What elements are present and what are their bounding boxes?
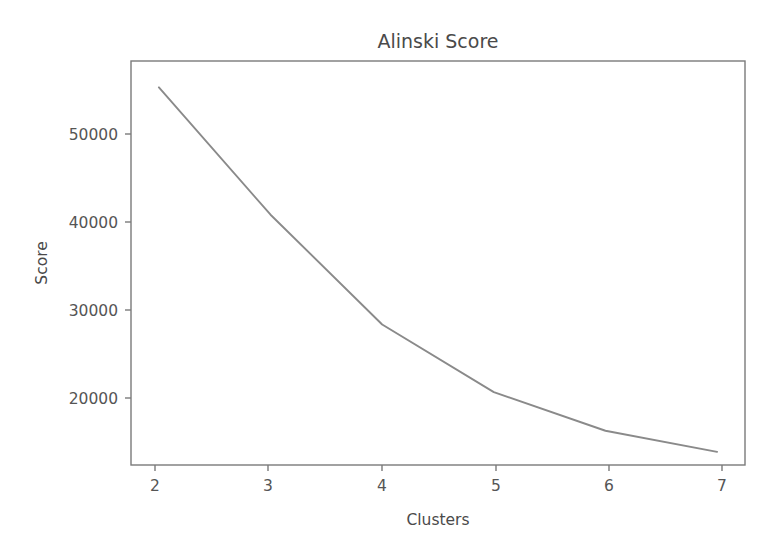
y-tick-label-50000: 50000 [69,126,118,144]
y-axis-ticks [125,134,131,398]
y-tick-label-40000: 40000 [69,214,118,232]
x-axis-tick-labels: 2 3 4 5 6 7 [150,477,727,495]
x-tick-label-6: 6 [604,477,614,495]
y-tick-label-30000: 30000 [69,302,118,320]
x-tick-label-4: 4 [377,477,387,495]
x-tick-label-2: 2 [150,477,160,495]
chart-title: Alinski Score [377,30,498,52]
plot-frame [131,61,745,465]
x-tick-label-7: 7 [717,477,727,495]
y-tick-label-20000: 20000 [69,390,118,408]
alinski-score-line-chart: 50000 40000 30000 20000 2 3 4 5 6 7 Alin… [0,0,780,551]
x-axis-ticks [155,465,722,471]
x-tick-label-5: 5 [491,477,501,495]
x-axis-label: Clusters [406,511,469,529]
y-axis-tick-labels: 50000 40000 30000 20000 [69,126,118,408]
x-tick-label-3: 3 [263,477,273,495]
data-line-alinski-score [159,87,717,451]
y-axis-label: Score [33,241,51,284]
chart-figure: 50000 40000 30000 20000 2 3 4 5 6 7 Alin… [0,0,780,551]
